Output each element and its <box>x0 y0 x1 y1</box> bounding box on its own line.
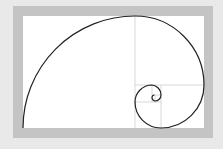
golden-spiral-diagram <box>0 0 223 149</box>
golden-rectangle <box>23 16 204 128</box>
